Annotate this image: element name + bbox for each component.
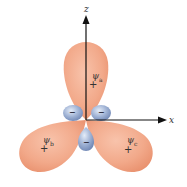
orbital-figure [0,0,187,187]
lobe-c [86,120,153,172]
x-axis-label: x [169,116,174,125]
psi-c-sign: + [124,145,132,155]
psi-a-sign: + [89,80,97,90]
neg-sign-right: − [98,109,105,117]
x-arrow-icon [158,117,167,124]
neg-sign-bottom: − [83,139,90,147]
orbital-diagram: z x ψa + ψb + ψc + − − − [0,0,187,187]
z-axis-label: z [84,5,89,14]
z-arrow-icon [83,15,90,24]
neg-sign-left: − [69,109,76,117]
psi-b-sign: + [40,144,48,154]
